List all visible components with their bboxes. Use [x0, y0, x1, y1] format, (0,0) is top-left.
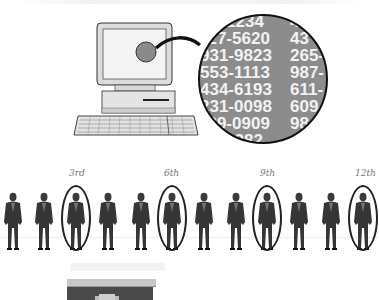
person-10: [286, 192, 312, 250]
cropped-header-remnant: [20, 0, 360, 4]
person-8: [223, 192, 249, 250]
keyboard-icon: [74, 116, 198, 135]
selection-oval-9th: [252, 185, 282, 251]
person-2: [31, 192, 57, 250]
ordinal-label-12th: 12th: [355, 168, 376, 178]
ordinal-label-3rd: 3rd: [69, 168, 85, 178]
person-1: [0, 192, 26, 250]
computer-illustration: [60, 15, 220, 145]
faint-bottom-text: [70, 263, 165, 271]
ordinal-label-6th: 6th: [164, 168, 179, 178]
ordinal-label-9th: 9th: [260, 168, 275, 178]
person-5: [128, 192, 154, 250]
selection-oval-12th: [348, 185, 378, 251]
bottom-illustration: [67, 279, 157, 300]
cpu-icon: [102, 91, 175, 113]
magnifier-lens: 5-1234 427-5620 931-9823 553-1113 434-61…: [198, 14, 328, 144]
person-11: [318, 192, 344, 250]
person-4: [95, 192, 121, 250]
phone-number-partial: 98: [290, 114, 309, 134]
selection-oval-6th: [157, 185, 187, 251]
monitor-icon: [97, 23, 172, 91]
person-7: [191, 192, 217, 250]
selection-oval-3rd: [61, 185, 91, 251]
